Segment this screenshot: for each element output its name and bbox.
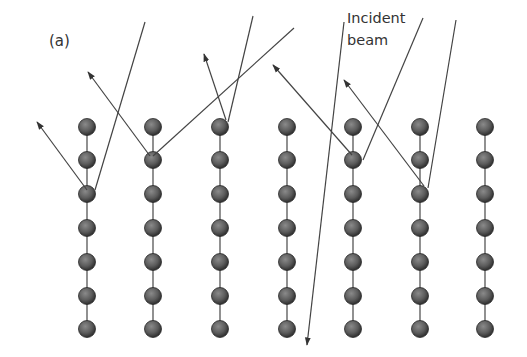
atom: [212, 288, 229, 305]
atom: [477, 254, 494, 271]
atom: [79, 321, 96, 338]
atom: [477, 152, 494, 169]
panel-label: (a): [49, 32, 70, 50]
atom: [212, 321, 229, 338]
atom: [345, 186, 362, 203]
atom: [477, 119, 494, 136]
atom: [145, 321, 162, 338]
atom: [212, 254, 229, 271]
atom: [79, 152, 96, 169]
reflected-ray: [273, 65, 352, 155]
atom: [79, 254, 96, 271]
atom: [279, 152, 296, 169]
atom: [345, 321, 362, 338]
atom: [412, 321, 429, 338]
atom: [345, 119, 362, 136]
reflected-rays: [37, 54, 424, 190]
atom: [212, 186, 229, 203]
incident-ray: [95, 22, 145, 190]
atom: [412, 119, 429, 136]
atom: [412, 186, 429, 203]
incident-beam-label-line2: beam: [347, 32, 388, 48]
incident-ray: [153, 28, 294, 156]
atom: [477, 321, 494, 338]
atom: [145, 288, 162, 305]
incident-beam-label-line1: Incident: [347, 10, 406, 26]
atom: [477, 220, 494, 237]
atom: [279, 119, 296, 136]
incident-ray: [307, 22, 344, 345]
atom: [79, 288, 96, 305]
atom: [279, 254, 296, 271]
atom: [79, 119, 96, 136]
atom: [145, 119, 162, 136]
atom: [477, 288, 494, 305]
atom: [212, 152, 229, 169]
atom: [412, 220, 429, 237]
crystal-diffraction-diagram: (a) Incident beam: [0, 0, 527, 357]
atom: [212, 220, 229, 237]
atom: [345, 220, 362, 237]
atom: [279, 186, 296, 203]
lattice-atoms: [79, 119, 494, 338]
atom: [279, 288, 296, 305]
atom: [145, 254, 162, 271]
atom: [79, 186, 96, 203]
reflected-ray: [88, 72, 150, 156]
atom: [345, 152, 362, 169]
atom: [412, 152, 429, 169]
atom: [345, 254, 362, 271]
atom: [79, 220, 96, 237]
atom: [145, 220, 162, 237]
atom: [412, 288, 429, 305]
atom: [145, 152, 162, 169]
atom: [279, 321, 296, 338]
atom: [412, 254, 429, 271]
atom: [212, 119, 229, 136]
atom: [345, 288, 362, 305]
atom: [145, 186, 162, 203]
reflected-ray: [204, 54, 226, 120]
incident-ray: [428, 20, 456, 188]
atom: [477, 186, 494, 203]
atom: [279, 220, 296, 237]
